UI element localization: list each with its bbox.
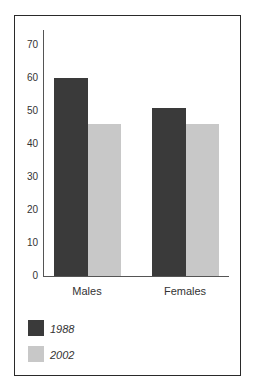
y-tick-label: 50 — [20, 105, 38, 117]
legend-label-2002: 2002 — [50, 348, 74, 362]
bar-females-2002 — [186, 124, 220, 276]
category-label-males: Males — [52, 285, 122, 297]
y-tick-label: 20 — [20, 204, 38, 216]
y-tick-label: 30 — [20, 171, 38, 183]
bar-males-2002 — [88, 124, 122, 276]
y-tick-label: 40 — [20, 138, 38, 150]
y-tick-label: 70 — [20, 39, 38, 51]
y-tick-label: 0 — [20, 270, 38, 282]
legend-label-1988: 1988 — [50, 322, 74, 336]
category-label-females: Females — [150, 285, 220, 297]
y-axis-line — [43, 30, 44, 277]
y-tick-label: 10 — [20, 237, 38, 249]
x-axis-line — [43, 276, 229, 277]
bar-females-1988 — [152, 108, 186, 276]
legend-swatch-1988 — [28, 320, 44, 336]
legend-swatch-2002 — [28, 346, 44, 362]
y-tick-label: 60 — [20, 72, 38, 84]
bar-males-1988 — [54, 78, 88, 276]
